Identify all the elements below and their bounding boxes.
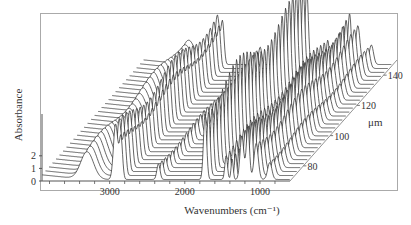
z-tick-label: 140	[388, 70, 403, 81]
x-tick-label: 3000	[100, 186, 120, 197]
z-axis-label: μm	[368, 116, 383, 128]
y-tick-label: 1	[31, 163, 36, 174]
x-tick-label: 2000	[175, 186, 195, 197]
y-axis-label: Absorbance	[12, 89, 24, 142]
x-tick-label: 1000	[250, 186, 270, 197]
x-axis-label: Wavenumbers (cm⁻¹)	[184, 204, 280, 217]
spectra-traces	[42, 0, 392, 183]
y-tick-label: 0	[31, 176, 36, 187]
z-tick-label: 100	[334, 131, 349, 142]
z-tick-label: 80	[307, 161, 317, 172]
y-tick-label: 2	[31, 150, 36, 161]
waterfall-chart: 300020001000 012 80100120140 Wavenumbers…	[0, 0, 411, 225]
z-tick-label: 120	[361, 100, 376, 111]
